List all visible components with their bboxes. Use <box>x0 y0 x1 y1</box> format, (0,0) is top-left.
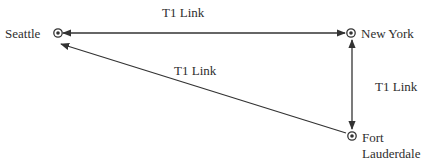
target-node-icon <box>54 29 62 37</box>
node-label-fort-lauderdale: Fort Lauderdale <box>362 130 420 162</box>
link-label-fort-lauderdale-seattle: T1 Link <box>174 63 216 78</box>
link-label-seattle-new-york: T1 Link <box>162 5 204 20</box>
link-label-new-york-fort-lauderdale: T1 Link <box>375 79 417 94</box>
link-fort-lauderdale-seattle <box>61 44 346 133</box>
node-label-new-york: New York <box>361 26 414 41</box>
node-label-seattle: Seattle <box>5 26 40 41</box>
target-node-icon <box>348 132 356 140</box>
target-node-icon <box>347 29 355 37</box>
